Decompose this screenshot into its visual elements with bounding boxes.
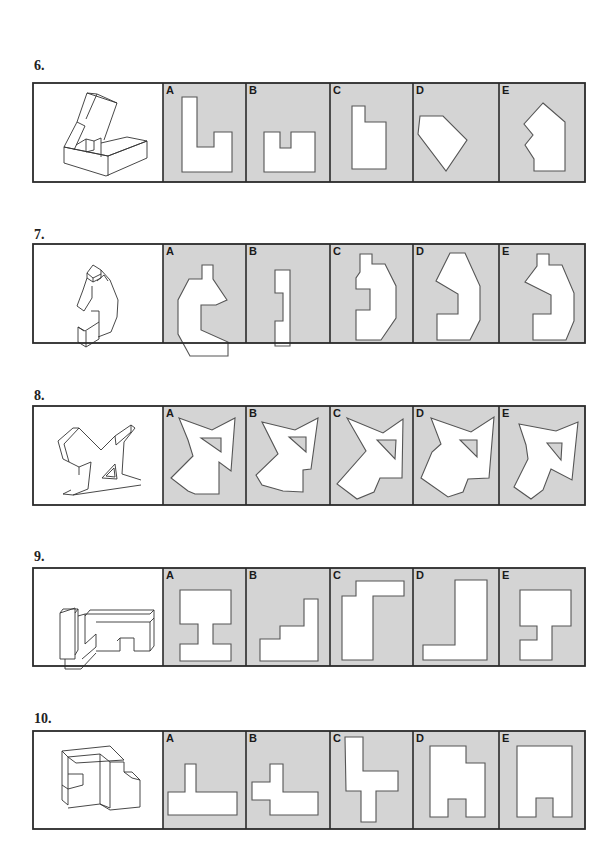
option-letter: A [166, 732, 174, 744]
option-letter: A [166, 407, 174, 419]
option-letter: E [502, 569, 509, 581]
question-7: 7.ABCDE [33, 227, 585, 356]
option-letter: A [166, 84, 174, 96]
option-letter: E [502, 732, 509, 744]
figure-cell [33, 83, 163, 182]
option-letter: C [333, 245, 341, 257]
option-letter: D [416, 84, 424, 96]
question-6: 6.ABCDE [33, 58, 585, 182]
option-letter: C [333, 407, 341, 419]
option-letter: B [249, 407, 257, 419]
option-letter: A [166, 245, 174, 257]
question-number: 6. [34, 58, 45, 73]
question-9: 9.ABCDE [33, 549, 585, 669]
figure-cell [33, 406, 163, 505]
question-number: 8. [34, 388, 45, 403]
option-letter: B [249, 245, 257, 257]
option-letter: E [502, 245, 509, 257]
option-letter: E [502, 407, 509, 419]
option-letter: C [333, 732, 341, 744]
option-letter: C [333, 569, 341, 581]
option-letter: A [166, 569, 174, 581]
option-letter: B [249, 569, 257, 581]
option-letter: D [416, 407, 424, 419]
test-page: 6.ABCDE7.ABCDE8.ABCDE9.ABCDE10.ABCDE [0, 0, 612, 859]
option-letter: D [416, 569, 424, 581]
question-10: 10.ABCDE [33, 711, 585, 829]
question-number: 9. [34, 549, 45, 564]
question-8: 8.ABCDE [33, 388, 585, 505]
option-letter: D [416, 732, 424, 744]
question-number: 10. [34, 711, 52, 726]
option-letter: B [249, 732, 257, 744]
figure-cell [33, 244, 163, 343]
option-letter: B [249, 84, 257, 96]
option-letter: E [502, 84, 509, 96]
option-letter: D [416, 245, 424, 257]
question-number: 7. [34, 227, 45, 242]
figure-cell [33, 731, 163, 829]
option-letter: C [333, 84, 341, 96]
